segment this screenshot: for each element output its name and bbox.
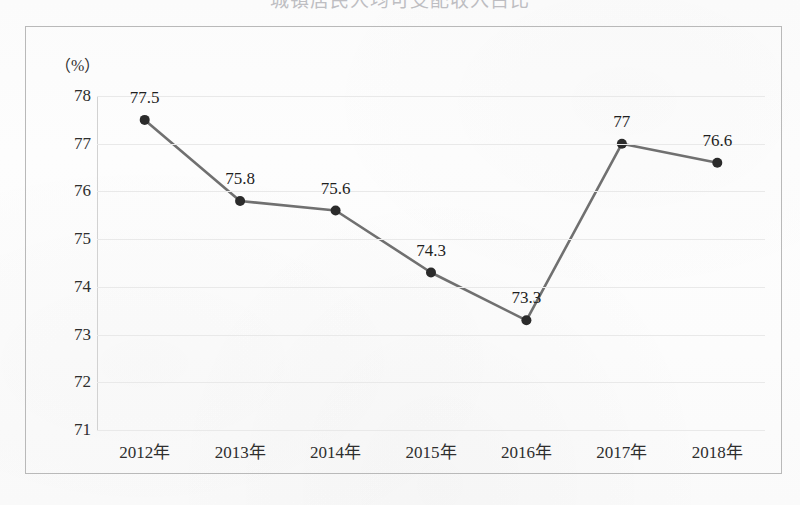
y-axis-tick-labels: 7172737475767778: [45, 96, 91, 430]
x-axis-tick-labels: 2012年2013年2014年2015年2016年2017年2018年: [97, 438, 765, 468]
y-axis-tick-label: 73: [51, 325, 91, 345]
y-axis-tick-label: 78: [51, 86, 91, 106]
data-point-label: 75.6: [291, 179, 381, 199]
data-point-label: 73.3: [481, 288, 571, 308]
y-axis-tick-label: 74: [51, 277, 91, 297]
cut-off-chart-title: 城镇居民人均可支配收入占比: [0, 0, 800, 13]
gridline: [97, 430, 765, 431]
data-point-label: 77: [577, 112, 667, 132]
data-point-label: 77.5: [100, 88, 190, 108]
y-axis-tick-label: 75: [51, 229, 91, 249]
y-axis-tick-label: 72: [51, 372, 91, 392]
x-axis-tick-label: 2012年: [90, 438, 200, 463]
x-axis-tick-label: 2016年: [471, 438, 581, 463]
data-point-label: 74.3: [386, 241, 476, 261]
x-axis-tick-label: 2018年: [662, 438, 772, 463]
y-axis-tick-label: 77: [51, 134, 91, 154]
data-point-label: 75.8: [195, 169, 285, 189]
y-axis-tick-label: 71: [51, 420, 91, 440]
data-point-labels: 77.575.875.674.373.37776.6: [97, 96, 765, 430]
y-axis-tick-label: 76: [51, 181, 91, 201]
chart-title-text: 城镇居民人均可支配收入占比: [0, 0, 800, 12]
x-axis-tick-label: 2017年: [567, 438, 677, 463]
x-axis-tick-label: 2013年: [185, 438, 295, 463]
x-axis-tick-label: 2015年: [376, 438, 486, 463]
y-axis-unit-label: （%）: [55, 52, 100, 76]
data-point-label: 76.6: [672, 131, 762, 151]
x-axis-tick-label: 2014年: [281, 438, 391, 463]
